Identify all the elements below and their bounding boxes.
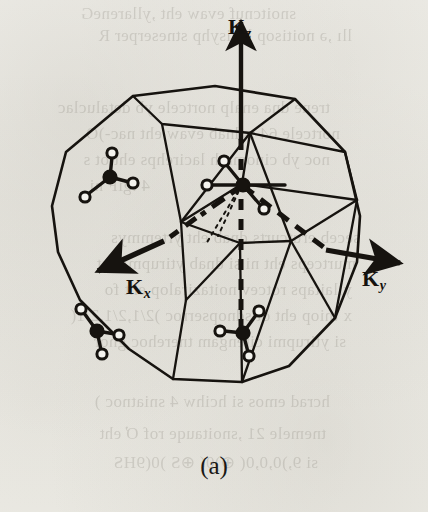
axis-label-ky: Ky (362, 268, 386, 293)
face-center-tetrahedron-lower-right (215, 306, 264, 361)
axis-label-kx-subscript: x (144, 286, 151, 301)
axis-label-kx-symbol: K (126, 274, 143, 299)
figure-page: snoitcnuf evaw eht ,yllareneGllı ,ǝ noit… (0, 0, 428, 512)
axis-ky-line (243, 186, 400, 263)
axis-label-ky-symbol: K (362, 266, 379, 291)
face-center-tetrahedron-lower-left (76, 304, 124, 359)
zone-hidden-edges (206, 184, 242, 244)
figure-caption: (a) (0, 452, 428, 480)
brillouin-zone-drawing (0, 0, 428, 512)
axis-label-kz-subscript: z (246, 26, 251, 41)
axis-label-ky-subscript: y (380, 278, 386, 293)
axis-label-kx: Kx (126, 276, 151, 301)
axis-label-kz: Kz (228, 16, 251, 41)
face-center-tetrahedron-left (80, 148, 138, 202)
axis-label-kz-symbol: K (228, 14, 245, 39)
